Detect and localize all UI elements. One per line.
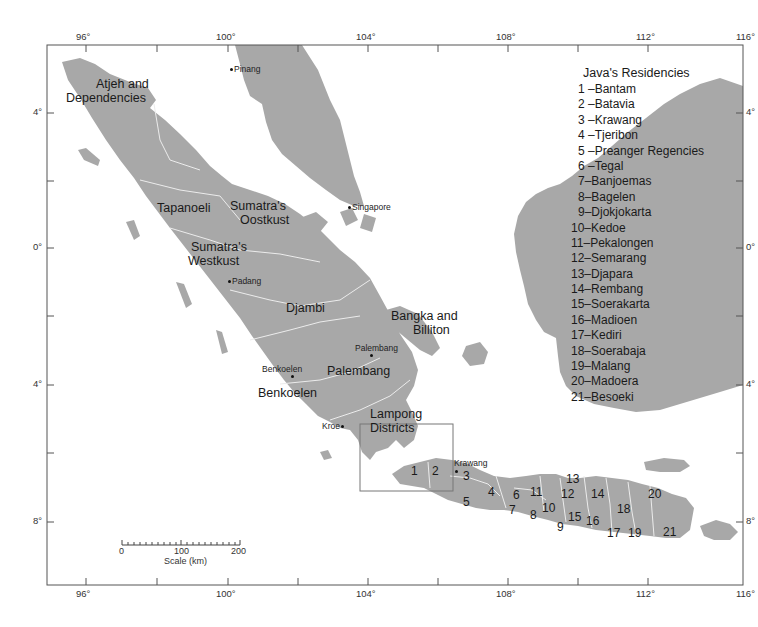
region-sumatras-westkust: Sumatra's Westkust	[188, 240, 247, 268]
legend-item: 17–Kediri	[569, 328, 704, 343]
java-num-5: 5	[463, 496, 470, 509]
siberut-island	[176, 282, 192, 308]
java-num-17: 17	[607, 527, 620, 540]
city-dot-krawang-icon	[455, 470, 458, 473]
java-residencies-legend: Java's Residencies 1 –Bantam 2 –Batavia …	[569, 66, 704, 405]
lon-label-100-bottom: 100°	[216, 588, 236, 599]
java-num-13: 13	[566, 473, 579, 486]
region-benkoelen: Benkoelen	[258, 386, 317, 400]
city-dot-benkoelen-icon	[291, 375, 294, 378]
region-bangka-billiton: Bangka and Billiton	[391, 309, 458, 337]
legend-item: 15–Soerakarta	[569, 297, 704, 312]
java-num-19: 19	[628, 527, 641, 540]
scale-tick-0: 0	[119, 546, 124, 556]
legend-item: 20–Madoera	[569, 374, 704, 389]
lon-label-100-top: 100°	[216, 31, 236, 42]
region-sumatras-oostkust: Sumatra's Oostkust	[230, 199, 289, 227]
city-dot-icon	[230, 68, 233, 71]
scale-tick-200: 200	[231, 546, 246, 556]
lat-label-4s-right: 4°	[746, 378, 755, 389]
lon-label-104-top: 104°	[356, 31, 376, 42]
lon-label-112-top: 112°	[636, 31, 655, 42]
legend-item: 2 –Batavia	[569, 97, 704, 112]
lon-label-108-bottom: 108°	[496, 588, 516, 599]
java-num-16: 16	[586, 515, 599, 528]
city-padang: Padang	[228, 277, 261, 287]
lat-label-0-left: 0°	[33, 241, 42, 252]
region-lampong-districts: Lampong Districts	[370, 407, 422, 435]
city-singapore: Singapore	[348, 203, 391, 213]
java-num-6: 6	[513, 489, 520, 502]
lat-label-8s-left: 8°	[33, 515, 42, 526]
legend-item: 18–Soerabaja	[569, 344, 704, 359]
lon-label-116-bottom: 116°	[736, 588, 755, 599]
lat-label-4n-right: 4°	[746, 106, 755, 117]
legend-item: 14–Rembang	[569, 282, 704, 297]
region-atjeh: Atjeh and Dependencies	[82, 77, 149, 105]
city-dot-icon	[341, 425, 344, 428]
scale-tick-100: 100	[174, 546, 189, 556]
scale-bar	[122, 540, 240, 545]
java-num-8: 8	[530, 509, 537, 522]
lon-label-108-top: 108°	[496, 31, 516, 42]
legend-item: 4 –Tjeribon	[569, 128, 704, 143]
java-num-2: 2	[432, 465, 439, 478]
java-num-14: 14	[591, 488, 604, 501]
scale-label: Scale (km)	[164, 556, 207, 566]
legend-item: 11–Pekalongen	[569, 236, 704, 251]
region-tapanoeli: Tapanoeli	[157, 201, 211, 215]
city-palembang: Palembang	[355, 344, 398, 354]
java-num-3: 3	[463, 470, 470, 483]
region-palembang: Palembang	[327, 364, 390, 378]
city-krawang: Krawang	[454, 459, 488, 469]
city-dot-palembang-icon	[370, 354, 373, 357]
legend-item: 7–Banjoemas	[569, 174, 704, 189]
city-benkoelen: Benkoelen	[262, 365, 302, 375]
java-num-10: 10	[542, 502, 555, 515]
lon-label-104-bottom: 104°	[356, 588, 376, 599]
java-num-9: 9	[557, 521, 564, 534]
legend-item: 3 –Krawang	[569, 113, 704, 128]
java-num-7: 7	[509, 504, 516, 517]
pagai-island	[216, 330, 228, 354]
legend-item: 16–Madioen	[569, 313, 704, 328]
lat-label-8s-right: 8°	[746, 515, 755, 526]
madura-island	[644, 458, 690, 472]
lon-label-116-top: 116°	[736, 31, 755, 42]
legend-item: 10–Kedoe	[569, 221, 704, 236]
nias-island	[126, 220, 140, 240]
simeulue-island	[78, 148, 100, 166]
java-num-4: 4	[488, 486, 495, 499]
legend-item: 1 –Bantam	[569, 82, 704, 97]
legend-title: Java's Residencies	[583, 66, 704, 80]
city-pinang: Pinang	[230, 65, 260, 75]
lon-label-112-bottom: 112°	[636, 588, 655, 599]
legend-item: 21–Besoeki	[569, 390, 704, 405]
legend-item: 9–Djokjokarta	[569, 205, 704, 220]
billiton-island	[462, 342, 488, 366]
lat-label-4n-left: 4°	[33, 106, 42, 117]
city-dot-icon	[348, 206, 351, 209]
legend-item: 6 –Tegal	[569, 159, 704, 174]
java-num-15: 15	[568, 511, 581, 524]
legend-item: 5 –Preanger Regencies	[569, 144, 704, 159]
java-num-11: 11	[530, 486, 542, 499]
bali-island	[700, 520, 738, 540]
legend-item: 13–Djapara	[569, 267, 704, 282]
java-num-1: 1	[411, 465, 418, 478]
lat-label-4s-left: 4°	[33, 378, 42, 389]
java-num-12: 12	[561, 488, 574, 501]
java-num-18: 18	[617, 503, 630, 516]
legend-item: 19–Malang	[569, 359, 704, 374]
java-num-21: 21	[663, 526, 676, 539]
java-num-20: 20	[648, 488, 661, 501]
city-dot-icon	[228, 280, 231, 283]
legend-item: 8–Bagelen	[569, 190, 704, 205]
city-kroe: Kroe	[322, 422, 345, 432]
lon-label-96-bottom: 96°	[76, 588, 90, 599]
enggano-island	[320, 450, 332, 460]
lon-label-96-top: 96°	[76, 31, 90, 42]
lat-label-0-right: 0°	[746, 241, 755, 252]
region-djambi: Djambi	[286, 301, 325, 315]
legend-item: 12–Semarang	[569, 251, 704, 266]
